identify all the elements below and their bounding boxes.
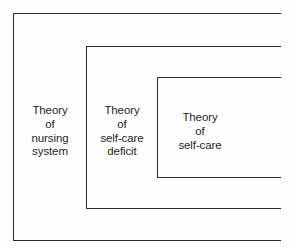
theory-of-nursing-system-label: Theory of nursing system <box>19 104 81 159</box>
theory-of-self-care-label: Theory of self-care <box>162 111 238 152</box>
nested-theory-diagram: Theory of nursing system Theory of self-… <box>0 0 293 248</box>
theory-of-self-care-deficit-label: Theory of self-care deficit <box>90 104 154 159</box>
